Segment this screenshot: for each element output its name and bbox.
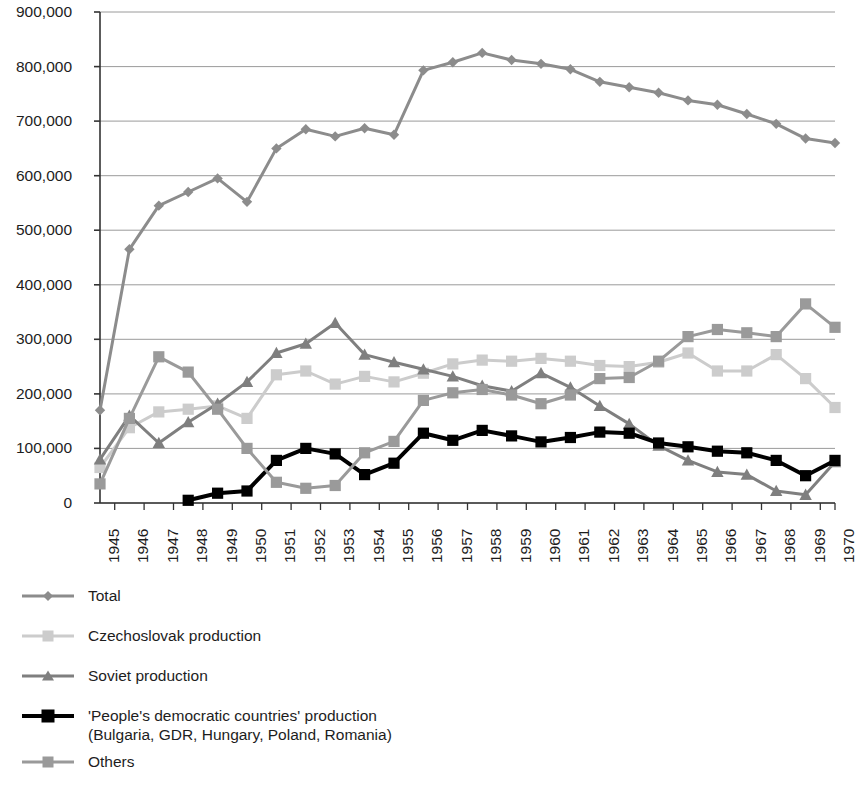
data-point-marker (330, 480, 341, 491)
x-axis-tick-label: 1963 (635, 529, 651, 563)
data-point-marker (712, 100, 722, 110)
data-point-marker (447, 387, 458, 398)
data-point-marker (829, 402, 840, 413)
data-point-marker (653, 356, 664, 367)
data-point-marker (771, 119, 781, 129)
data-point-marker (94, 478, 105, 489)
gridlines (100, 12, 835, 503)
x-axis-tick-label: 1947 (165, 529, 181, 563)
x-axis-tick-label: 1966 (723, 529, 739, 563)
data-point-marker (771, 455, 782, 466)
x-axis-tick-label: 1954 (371, 529, 387, 563)
line-chart-figure: 900,000800,000700,000600,000500,000400,0… (0, 0, 850, 580)
legend-item[interactable]: Total (22, 586, 121, 605)
data-point-marker (418, 395, 429, 406)
data-point-marker (506, 389, 517, 400)
legend-item[interactable]: Others (22, 752, 135, 771)
data-point-marker (683, 95, 693, 105)
data-point-marker (418, 428, 429, 439)
data-point-marker (359, 371, 370, 382)
data-point-marker (183, 367, 194, 378)
data-point-marker (506, 55, 516, 65)
square-marker-icon (22, 628, 74, 644)
data-point-marker (388, 376, 399, 387)
data-point-marker (330, 448, 341, 459)
data-point-marker (741, 365, 752, 376)
data-point-marker (741, 447, 752, 458)
legend-marker (42, 710, 55, 723)
x-axis-tick-label: 1950 (253, 529, 269, 563)
data-point-marker (624, 428, 635, 439)
legend-item[interactable]: Czechoslovak production (22, 626, 261, 645)
data-point-marker (182, 416, 194, 427)
x-axis-tick-label: 1951 (282, 529, 298, 563)
data-point-marker (506, 356, 517, 367)
x-axis-tick-label: 1970 (841, 529, 857, 563)
data-point-marker (624, 372, 635, 383)
x-axis-tick-label: 1949 (224, 529, 240, 563)
data-point-marker (506, 430, 517, 441)
data-point-marker (653, 88, 663, 98)
data-point-marker (771, 331, 782, 342)
diamond-marker-icon (22, 588, 74, 604)
data-point-marker (330, 379, 341, 390)
x-axis-tick-label: 1948 (194, 529, 210, 563)
series-line (100, 53, 835, 410)
x-axis-tick-label: 1961 (576, 529, 592, 563)
data-point-marker (300, 443, 311, 454)
data-point-marker (359, 123, 369, 133)
data-point-marker (535, 367, 547, 378)
x-axis-tick-label: 1969 (812, 529, 828, 563)
data-point-marker (800, 133, 810, 143)
x-axis-tick-label: 1968 (782, 529, 798, 563)
data-point-marker (388, 458, 399, 469)
data-point-marker (388, 436, 399, 447)
data-point-marker (389, 130, 399, 140)
data-point-marker (212, 404, 223, 415)
data-point-marker (624, 82, 634, 92)
data-point-marker (330, 131, 340, 141)
series-total (95, 48, 840, 416)
data-point-marker (300, 483, 311, 494)
legend-item[interactable]: 'People's democratic countries' producti… (22, 706, 392, 744)
data-point-marker (329, 317, 341, 328)
data-point-marker (359, 469, 370, 480)
x-axis-tick-label: 1955 (400, 529, 416, 563)
data-point-marker (477, 48, 487, 58)
data-point-marker (535, 436, 546, 447)
data-point-marker (271, 477, 282, 488)
data-point-marker (212, 488, 223, 499)
legend-item-label: Total (88, 586, 121, 605)
data-point-marker (183, 187, 193, 197)
data-point-marker (829, 322, 840, 333)
legend-marker (43, 757, 54, 768)
data-point-marker (448, 57, 458, 67)
x-axis-tick-label: 1965 (694, 529, 710, 563)
data-point-marker (800, 373, 811, 384)
x-axis-tick-label: 1957 (459, 529, 475, 563)
x-axis-tick-label: 1956 (429, 529, 445, 563)
data-point-marker (536, 59, 546, 69)
x-axis-tick-label: 1945 (106, 529, 122, 563)
data-point-marker (300, 365, 311, 376)
data-point-marker (682, 331, 693, 342)
data-point-marker (153, 351, 164, 362)
data-point-marker (771, 349, 782, 360)
data-point-marker (653, 437, 664, 448)
series-line (100, 323, 835, 495)
data-point-marker (682, 347, 693, 358)
data-point-marker (682, 441, 693, 452)
data-point-marker (271, 455, 282, 466)
data-point-marker (241, 485, 252, 496)
data-point-marker (565, 389, 576, 400)
data-point-marker (271, 369, 282, 380)
legend-item-label: Czechoslovak production (88, 626, 261, 645)
data-point-marker (477, 384, 488, 395)
data-point-marker (565, 64, 575, 74)
legend-item-label: Soviet production (88, 666, 208, 685)
legend-marker (43, 596, 53, 601)
legend-item[interactable]: Soviet production (22, 666, 208, 685)
x-axis-tick-label: 1952 (312, 529, 328, 563)
data-point-marker (447, 358, 458, 369)
